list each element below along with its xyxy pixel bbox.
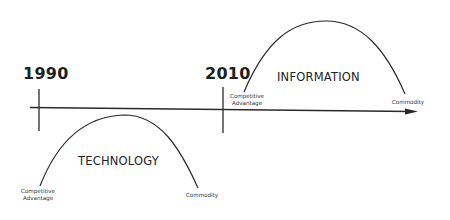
information-start-label: Competitive Advantage: [227, 93, 267, 107]
information-end-label: Commodity: [388, 99, 428, 106]
technology-start-label: Competitive Advantage: [20, 188, 56, 202]
information-label: INFORMATION: [277, 72, 360, 84]
year-label-2010: 2010: [205, 66, 251, 82]
technology-end-label: Commodity: [182, 192, 222, 199]
diagram-lines: [0, 0, 450, 220]
information-start-label-line1: Competitive: [227, 93, 267, 100]
timeline-arrow-icon: [405, 109, 418, 115]
year-label-1990: 1990: [23, 66, 69, 82]
information-start-label-line2: Advantage: [227, 100, 267, 107]
technology-start-label-line1: Competitive: [20, 188, 56, 195]
technology-start-label-line2: Advantage: [20, 195, 56, 202]
timeline-axis: [30, 108, 412, 112]
lifecycle-diagram: 1990 2010 TECHNOLOGY Competitive Advanta…: [0, 0, 450, 220]
technology-curve: [40, 115, 198, 188]
technology-label: TECHNOLOGY: [78, 156, 159, 168]
